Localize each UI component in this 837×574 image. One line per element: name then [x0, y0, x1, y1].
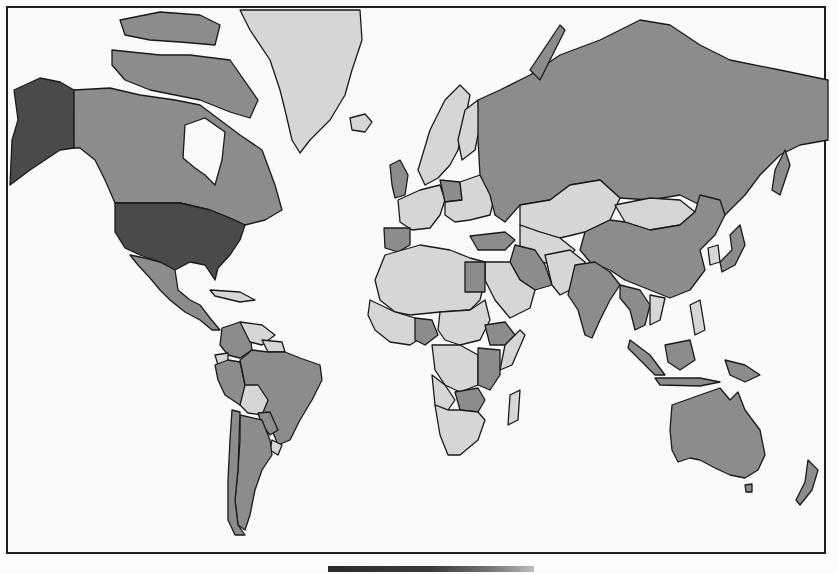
philippines: [690, 300, 705, 335]
cuba: [210, 290, 255, 302]
guianas: [262, 340, 285, 352]
east-africa: [478, 348, 500, 390]
united-kingdom: [390, 160, 408, 198]
world-map: [0, 0, 837, 574]
alaska: [10, 78, 74, 185]
indonesia-borneo: [665, 340, 695, 370]
southern-africa: [435, 405, 485, 455]
indonesia-sumatra: [628, 340, 665, 375]
papua-new-guinea: [725, 360, 760, 382]
argentina: [235, 415, 272, 530]
nigeria: [415, 318, 438, 345]
tasmania: [745, 484, 752, 492]
greenland: [240, 10, 362, 153]
iceland: [350, 114, 372, 132]
canada-arctic-islands: [120, 12, 220, 45]
zambia-zimbabwe: [455, 388, 485, 412]
myanmar-thailand: [620, 285, 650, 330]
egypt: [465, 262, 485, 292]
turkey: [470, 232, 515, 250]
madagascar: [508, 390, 520, 425]
vietnam: [650, 295, 665, 325]
bottom-scale-bar: [328, 566, 534, 572]
japan: [720, 225, 745, 272]
indonesia-java: [655, 378, 720, 386]
australia: [670, 388, 765, 478]
korea: [708, 245, 720, 265]
india: [568, 262, 620, 338]
new-zealand: [796, 460, 818, 505]
